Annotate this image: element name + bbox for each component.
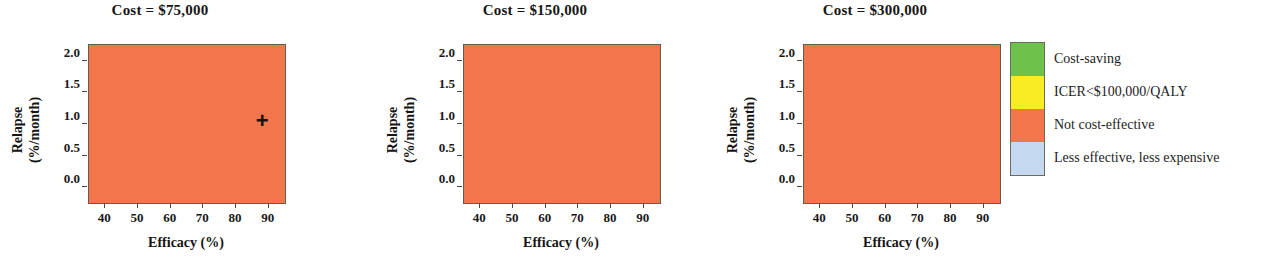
legend-label-not_cost_effective: Not cost-effective xyxy=(1054,117,1154,133)
legend-label-less_effective_less_expensive: Less effective, less expensive xyxy=(1054,150,1219,166)
x-axis-tick-label: 40 xyxy=(473,210,486,226)
x-axis-tick xyxy=(610,203,611,208)
x-axis-tick-label: 90 xyxy=(976,210,989,226)
y-axis-title-line2: (%/month) xyxy=(401,55,418,205)
x-axis-title: Efficacy (%) xyxy=(803,235,999,251)
y-axis-tick xyxy=(82,60,87,61)
panel-3: Cost = $300,0004050607080900.00.51.01.52… xyxy=(715,0,1035,262)
y-axis-tick-label: 1.5 xyxy=(765,76,795,92)
x-axis-tick-label: 70 xyxy=(571,210,584,226)
x-axis-tick-label: 60 xyxy=(878,210,891,226)
legend-swatch-not_cost_effective xyxy=(1011,109,1044,142)
y-axis-tick xyxy=(797,155,802,156)
x-axis-tick-label: 90 xyxy=(261,210,274,226)
y-axis-tick-label: 1.5 xyxy=(425,76,455,92)
figure-root: Cost = $75,000+4050607080900.00.51.01.52… xyxy=(0,0,1262,262)
panel-2: Cost = $150,0004050607080900.00.51.01.52… xyxy=(375,0,695,262)
x-axis-tick-label: 60 xyxy=(538,210,551,226)
x-axis-tick xyxy=(268,203,269,208)
x-axis-tick xyxy=(819,203,820,208)
y-axis-tick xyxy=(797,60,802,61)
x-axis-tick xyxy=(512,203,513,208)
y-axis-tick-label: 1.0 xyxy=(50,108,80,124)
plus-marker: + xyxy=(256,110,269,132)
y-axis-title: Relapse(%/month) xyxy=(384,55,418,205)
y-axis-title-line2: (%/month) xyxy=(26,55,43,205)
y-axis-tick-label: 2.0 xyxy=(765,45,795,61)
y-axis-title: Relapse(%/month) xyxy=(9,55,43,205)
x-axis-tick xyxy=(202,203,203,208)
x-axis-tick-label: 80 xyxy=(229,210,242,226)
y-axis-title-line1: Relapse xyxy=(724,55,741,205)
plot-area xyxy=(803,44,1001,204)
x-axis-tick xyxy=(104,203,105,208)
x-axis-tick-label: 40 xyxy=(813,210,826,226)
x-axis-tick xyxy=(885,203,886,208)
x-axis-tick-label: 80 xyxy=(944,210,957,226)
y-axis-tick xyxy=(797,91,802,92)
x-axis-tick xyxy=(917,203,918,208)
panel-1: Cost = $75,000+4050607080900.00.51.01.52… xyxy=(0,0,320,262)
x-axis-title: Efficacy (%) xyxy=(88,235,284,251)
y-axis-tick-label: 2.0 xyxy=(50,45,80,61)
y-axis-tick-label: 2.0 xyxy=(425,45,455,61)
y-axis-tick xyxy=(82,123,87,124)
legend-swatch-icer_under_100k xyxy=(1011,76,1044,109)
x-axis-tick xyxy=(479,203,480,208)
legend-swatch-cost_saving xyxy=(1011,43,1044,76)
x-axis-tick-label: 50 xyxy=(131,210,144,226)
y-axis-tick-label: 0.5 xyxy=(50,140,80,156)
y-axis-tick-label: 0.0 xyxy=(425,171,455,187)
legend-swatch-less_effective_less_expensive xyxy=(1011,142,1044,175)
x-axis-tick-label: 80 xyxy=(604,210,617,226)
x-axis-tick xyxy=(170,203,171,208)
plot-area: + xyxy=(88,44,286,204)
x-axis-title: Efficacy (%) xyxy=(463,235,659,251)
y-axis-tick xyxy=(82,186,87,187)
y-axis-tick xyxy=(457,155,462,156)
y-axis-title-line2: (%/month) xyxy=(741,55,758,205)
x-axis-tick xyxy=(950,203,951,208)
panel-title: Cost = $300,000 xyxy=(715,2,1035,19)
x-axis-tick-label: 70 xyxy=(911,210,924,226)
legend-label-icer_under_100k: ICER<$100,000/QALY xyxy=(1054,84,1188,100)
y-axis-tick xyxy=(82,91,87,92)
y-axis-tick-label: 1.5 xyxy=(50,76,80,92)
x-axis-tick-label: 50 xyxy=(506,210,519,226)
x-axis-tick-label: 50 xyxy=(846,210,859,226)
x-axis-tick-label: 40 xyxy=(98,210,111,226)
x-axis-tick xyxy=(545,203,546,208)
legend-swatch-stack xyxy=(1010,42,1045,176)
x-axis-tick-label: 70 xyxy=(196,210,209,226)
plot-area xyxy=(463,44,661,204)
y-axis-title: Relapse(%/month) xyxy=(724,55,758,205)
y-axis-tick xyxy=(797,123,802,124)
y-axis-tick xyxy=(797,186,802,187)
x-axis-tick xyxy=(577,203,578,208)
y-axis-tick-label: 1.0 xyxy=(765,108,795,124)
y-axis-title-line1: Relapse xyxy=(9,55,26,205)
x-axis-tick xyxy=(852,203,853,208)
y-axis-tick-label: 0.5 xyxy=(425,140,455,156)
y-axis-tick-label: 1.0 xyxy=(425,108,455,124)
y-axis-tick xyxy=(457,123,462,124)
y-axis-tick-label: 0.5 xyxy=(765,140,795,156)
x-axis-tick-label: 90 xyxy=(636,210,649,226)
x-axis-tick-label: 60 xyxy=(163,210,176,226)
y-axis-tick-label: 0.0 xyxy=(765,171,795,187)
y-axis-title-line1: Relapse xyxy=(384,55,401,205)
y-axis-tick xyxy=(457,186,462,187)
x-axis-tick xyxy=(235,203,236,208)
y-axis-tick-label: 0.0 xyxy=(50,171,80,187)
x-axis-tick xyxy=(643,203,644,208)
x-axis-tick xyxy=(983,203,984,208)
x-axis-tick xyxy=(137,203,138,208)
legend-label-cost_saving: Cost-saving xyxy=(1054,51,1121,67)
y-axis-tick xyxy=(457,60,462,61)
y-axis-tick xyxy=(82,155,87,156)
panel-title: Cost = $75,000 xyxy=(0,2,320,19)
panel-title: Cost = $150,000 xyxy=(375,2,695,19)
y-axis-tick xyxy=(457,91,462,92)
